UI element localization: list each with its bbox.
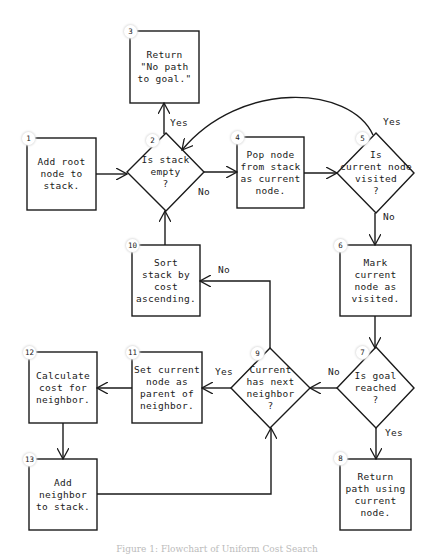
node-4-number-badge: 4: [231, 131, 244, 144]
node-5-number-badge: 5: [356, 132, 369, 145]
figure-caption: Figure 1: Flowchart of Uniform Cost Sear…: [0, 544, 434, 554]
node-9-number-badge: 9: [251, 347, 264, 360]
edge-label-5-2-yes: Yes: [383, 116, 401, 127]
node-11-label: Set current node as parent of neighbor.: [132, 352, 202, 423]
node-9-label: Current has next neighbor ?: [231, 348, 310, 428]
node-10-label: Sort stack by cost ascending.: [132, 245, 200, 316]
node-12-label: Calculate cost for neighbor.: [29, 352, 97, 423]
edge-label-9-11-yes: Yes: [215, 366, 233, 377]
edge-label-7-9-no: No: [328, 366, 340, 377]
edge-label-2-4-no: No: [198, 186, 210, 197]
node-13-label: Add neighbor to stack.: [29, 459, 97, 530]
node-13-number-badge: 13: [23, 453, 36, 466]
edge-13-9: [97, 428, 271, 494]
node-11-number-badge: 11: [126, 346, 139, 359]
node-7-number-badge: 7: [356, 346, 369, 359]
node-6-number-badge: 6: [334, 239, 347, 252]
edge-9-10: [200, 281, 270, 348]
node-8-label: Return path using current node.: [340, 459, 411, 530]
node-1-label: Add root node to stack.: [27, 138, 96, 210]
node-3-label: Return "No path to goal.": [130, 31, 199, 103]
node-10-number-badge: 10: [126, 239, 139, 252]
node-7-label: Is goal reached ?: [337, 347, 414, 428]
edge-label-2-3-yes: Yes: [170, 117, 188, 128]
edge-label-5-6-no: No: [383, 211, 395, 222]
edge-label-7-8-yes: Yes: [385, 427, 403, 438]
node-5-label: Is current node visited ?: [331, 133, 421, 213]
edge-label-9-10-no: No: [218, 264, 230, 275]
node-6-label: Mark current node as visited.: [340, 245, 411, 316]
node-3-number-badge: 3: [124, 25, 137, 38]
node-2-number-badge: 2: [146, 134, 159, 147]
node-8-number-badge: 8: [334, 452, 347, 465]
node-12-number-badge: 12: [23, 346, 36, 359]
node-4-label: Pop node from stack as current node.: [237, 137, 304, 208]
node-1-number-badge: 1: [22, 132, 35, 145]
node-2-label: Is stack empty ?: [127, 133, 204, 211]
